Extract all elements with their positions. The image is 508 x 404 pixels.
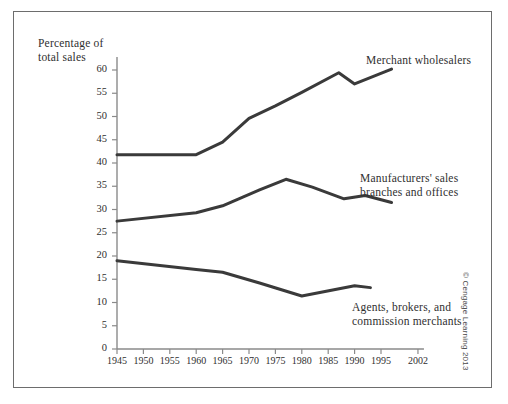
y-axis-tick-label: 15 <box>81 272 107 283</box>
series-label-agents-brokers: Agents, brokers, and commission merchant… <box>352 300 462 328</box>
series-label-line: commission merchants <box>352 314 462 328</box>
series-label-line: Merchant wholesalers <box>366 53 471 67</box>
y-axis-tick-label: 10 <box>81 296 107 307</box>
series-line-0 <box>117 69 392 155</box>
series-line-2 <box>117 261 370 296</box>
series-label-line: Manufacturers' sales <box>360 171 458 185</box>
x-axis-tick-label: 2002 <box>401 355 435 366</box>
y-axis-tick-label: 50 <box>81 110 107 121</box>
y-axis-tick-label: 60 <box>81 63 107 74</box>
y-axis-tick-label: 25 <box>81 226 107 237</box>
y-axis-tick-label: 45 <box>81 133 107 144</box>
series-label-manufacturers-branches: Manufacturers' sales branches and office… <box>360 171 458 199</box>
y-axis-tick-label: 55 <box>81 86 107 97</box>
x-axis-tick-label: 1995 <box>364 355 398 366</box>
series-label-line: branches and offices <box>360 185 458 199</box>
y-axis-tick-label: 35 <box>81 179 107 190</box>
y-axis-tick-label: 0 <box>81 342 107 353</box>
y-axis-tick-label: 30 <box>81 203 107 214</box>
chart-figure: Percentage of total sales Merchant whole… <box>0 0 508 404</box>
series-line-1 <box>117 179 392 221</box>
series-label-line: Agents, brokers, and <box>352 300 462 314</box>
series-label-merchant-wholesalers: Merchant wholesalers <box>366 53 471 67</box>
y-axis-tick-label: 40 <box>81 156 107 167</box>
y-axis-tick-label: 5 <box>81 319 107 330</box>
y-axis-tick-label: 20 <box>81 249 107 260</box>
copyright-notice: © Cengage Learning 2013 <box>461 272 470 371</box>
